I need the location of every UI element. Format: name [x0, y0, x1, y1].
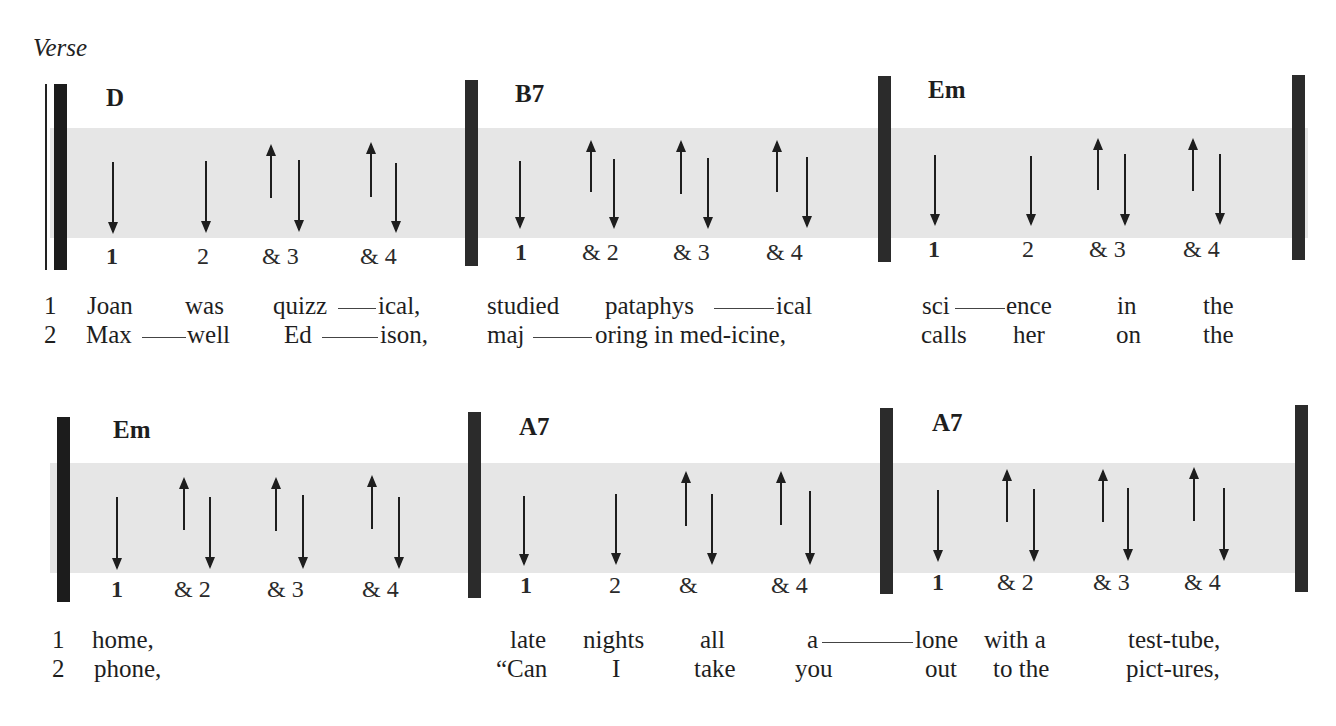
beat-count: &	[679, 572, 698, 599]
melisma-line	[714, 308, 774, 309]
lyric-syllable: ison,	[380, 321, 428, 349]
down-strum-arrow-icon	[934, 155, 936, 224]
down-strum-arrow-icon	[205, 161, 207, 231]
bar-line	[880, 408, 893, 594]
melisma-line	[822, 642, 913, 643]
melisma-line	[955, 308, 1005, 309]
lyric-syllable: oring in med-icine,	[595, 321, 786, 349]
beat-count: & 2	[582, 239, 619, 266]
chord-symbol: A7	[519, 413, 550, 441]
beat-count: 1	[111, 576, 123, 603]
up-strum-arrow-icon	[590, 142, 592, 192]
chord-symbol: B7	[515, 80, 544, 108]
down-strum-arrow-icon	[209, 497, 211, 567]
lyric-syllable: the	[1203, 321, 1234, 349]
lyric-syllable: a	[807, 626, 818, 654]
lyric-syllable: home,	[92, 626, 154, 654]
beat-count: 1	[932, 569, 944, 596]
bar-line	[465, 80, 478, 266]
beat-count: & 3	[1089, 236, 1126, 263]
down-strum-arrow-icon	[302, 495, 304, 567]
down-strum-arrow-icon	[523, 496, 525, 564]
verse-number: 1	[52, 626, 65, 654]
up-strum-arrow-icon	[371, 477, 373, 529]
up-strum-arrow-icon	[680, 142, 682, 194]
lyric-syllable: maj	[487, 321, 525, 349]
bar-line	[1292, 75, 1305, 260]
up-strum-arrow-icon	[1097, 140, 1099, 190]
bar-line	[57, 417, 70, 602]
beat-count: & 2	[174, 576, 211, 603]
lyric-syllable: late	[510, 626, 546, 654]
beat-count: 2	[197, 243, 209, 270]
bar-line	[878, 76, 891, 262]
beat-count: & 4	[766, 239, 803, 266]
down-strum-arrow-icon	[1030, 156, 1032, 224]
beat-count: & 4	[362, 576, 399, 603]
lyric-syllable: Joan	[87, 292, 133, 320]
up-strum-arrow-icon	[275, 479, 277, 531]
melisma-line	[338, 308, 376, 309]
beat-count: 2	[609, 572, 621, 599]
up-strum-arrow-icon	[1006, 471, 1008, 522]
up-strum-arrow-icon	[1193, 469, 1195, 521]
melisma-line	[533, 337, 592, 338]
up-strum-arrow-icon	[183, 479, 185, 530]
lyric-syllable: well	[187, 321, 230, 349]
chord-symbol: Em	[113, 416, 151, 444]
lyric-syllable: I	[612, 655, 620, 683]
lyric-syllable: to the	[993, 655, 1049, 683]
lyric-syllable: on	[1116, 321, 1141, 349]
up-strum-arrow-icon	[270, 146, 272, 198]
down-strum-arrow-icon	[711, 494, 713, 563]
up-strum-arrow-icon	[1102, 471, 1104, 522]
down-strum-arrow-icon	[1124, 154, 1126, 224]
beat-count: 1	[520, 572, 532, 599]
lyric-syllable: her	[1013, 321, 1045, 349]
repeat-start-thin-line	[45, 84, 47, 270]
lyric-syllable: was	[185, 292, 224, 320]
lyric-syllable: ical	[776, 292, 812, 320]
beat-count: 2	[1022, 236, 1034, 263]
chord-symbol: Em	[928, 76, 966, 104]
beat-count: 1	[515, 239, 527, 266]
lyric-syllable: all	[700, 626, 725, 654]
lyric-syllable: studied	[487, 292, 559, 320]
down-strum-arrow-icon	[707, 158, 709, 227]
lyric-syllable: the	[1203, 292, 1234, 320]
up-strum-arrow-icon	[1192, 140, 1194, 191]
lyric-syllable: in	[1117, 292, 1136, 320]
up-strum-arrow-icon	[685, 473, 687, 526]
lyric-syllable: out	[925, 655, 957, 683]
up-strum-arrow-icon	[370, 144, 372, 197]
beat-count: & 3	[267, 576, 304, 603]
down-strum-arrow-icon	[116, 497, 118, 568]
lyric-syllable: test-tube,	[1128, 626, 1220, 654]
lyric-syllable: Max	[86, 321, 132, 349]
lyric-syllable: Ed	[284, 321, 312, 349]
down-strum-arrow-icon	[937, 490, 939, 560]
lyric-syllable: lone	[915, 626, 958, 654]
lyric-syllable: ical,	[378, 292, 420, 320]
down-strum-arrow-icon	[806, 157, 808, 226]
up-strum-arrow-icon	[776, 142, 778, 192]
down-strum-arrow-icon	[809, 491, 811, 563]
down-strum-arrow-icon	[1127, 488, 1129, 559]
beat-count: & 4	[1184, 569, 1221, 596]
bar-line	[468, 412, 481, 598]
down-strum-arrow-icon	[1223, 488, 1225, 559]
melisma-line	[142, 337, 186, 338]
up-strum-arrow-icon	[780, 473, 782, 525]
lyric-syllable: with a	[984, 626, 1046, 654]
down-strum-arrow-icon	[398, 497, 400, 567]
down-strum-arrow-icon	[1219, 154, 1221, 223]
beat-count: & 3	[262, 243, 299, 270]
beat-count: 1	[928, 236, 940, 263]
strum-band	[50, 463, 1308, 573]
verse-number: 2	[52, 655, 65, 683]
down-strum-arrow-icon	[1033, 489, 1035, 560]
beat-count: & 4	[1183, 236, 1220, 263]
down-strum-arrow-icon	[112, 162, 114, 232]
chord-symbol: A7	[932, 409, 963, 437]
down-strum-arrow-icon	[613, 159, 615, 227]
